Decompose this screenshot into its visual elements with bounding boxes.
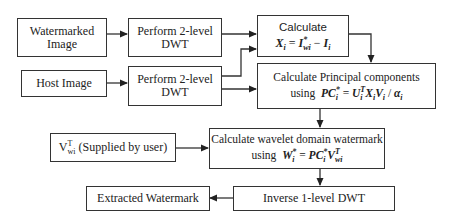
node-extracted-watermark: Extracted Watermark: [86, 186, 210, 211]
node-label: Perform 2-level: [137, 25, 213, 38]
node-label: Watermarked: [30, 25, 94, 38]
node-label: (Supplied by user): [79, 141, 168, 154]
node-label: Calculate Principal components: [273, 71, 419, 84]
symbol-v: VTwi: [59, 140, 76, 156]
node-label: Calculate wavelet domain watermark: [211, 133, 382, 146]
node-dwt-bottom: Perform 2-level DWT: [128, 66, 222, 106]
arrow-calc-x-to-calc-pc: [349, 34, 371, 62]
node-label: DWT: [161, 38, 188, 51]
node-calculate-w: Calculate wavelet domain watermark using…: [209, 128, 385, 169]
node-calculate-pc: Calculate Principal components using PC*…: [257, 63, 436, 109]
node-inverse-dwt: Inverse 1-level DWT: [233, 186, 395, 211]
node-label: Calculate: [279, 21, 327, 34]
arrow-dwt-bottom-to-calc-x: [222, 49, 256, 76]
node-label: Inverse 1-level DWT: [263, 192, 365, 205]
node-label: DWT: [161, 86, 188, 99]
node-dwt-top: Perform 2-level DWT: [128, 18, 222, 57]
node-calculate-x: Calculate Xi = I*wi − Ii: [257, 15, 349, 57]
node-label: Extracted Watermark: [97, 192, 199, 205]
formula-pc: using PC*i = UTiXiVi / αi: [290, 86, 402, 102]
node-watermarked-image: Watermarked Image: [17, 18, 107, 57]
node-v-user: VTwi (Supplied by user): [50, 133, 176, 162]
node-label: Image: [47, 38, 77, 51]
node-label: Host Image: [36, 77, 92, 90]
node-host-image: Host Image: [21, 70, 107, 97]
formula-x: Xi = I*wi − Ii: [276, 36, 331, 52]
formula-w: using W*i = PC*iVTwi: [251, 148, 342, 164]
